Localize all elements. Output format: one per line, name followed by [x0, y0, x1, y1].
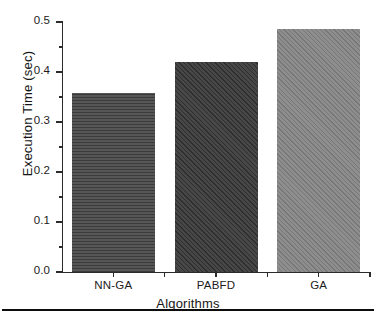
- x-tick-boundary: [267, 272, 268, 277]
- bar-nn-ga: [72, 93, 155, 272]
- bar-pabfd: [175, 62, 258, 272]
- x-tick-boundary: [369, 272, 370, 277]
- x-tick-major: [318, 272, 319, 277]
- bar-ga: [277, 29, 360, 273]
- y-axis-title: Execution Time (sec): [20, 14, 35, 214]
- figure-bottom-rule: [2, 309, 374, 311]
- y-tick-label: 0.1: [10, 214, 50, 226]
- x-tick-boundary: [164, 272, 165, 277]
- x-tick-major: [113, 272, 114, 277]
- x-tick-label: NN-GA: [63, 279, 163, 291]
- x-tick-major: [215, 272, 216, 277]
- y-tick-label: 0.0: [10, 264, 50, 276]
- x-tick-label: GA: [269, 279, 369, 291]
- plot-area: [62, 22, 370, 272]
- x-tick-label: PABFD: [166, 279, 266, 291]
- bar-chart-figure: 0.00.10.20.30.40.5 NN-GAPABFDGA Executio…: [0, 0, 376, 327]
